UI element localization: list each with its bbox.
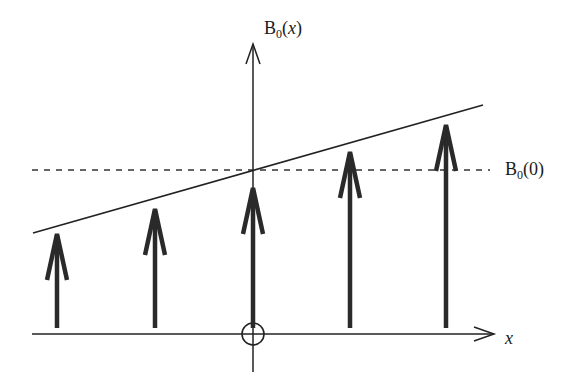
x-axis-label: x <box>504 328 513 348</box>
field-arrow-3-icon <box>243 188 263 328</box>
field-arrow-4-icon <box>340 152 360 328</box>
field-arrows <box>47 125 456 328</box>
field-gradient-diagram: B0(x) B0(0) x <box>0 0 583 390</box>
field-arrow-5-icon <box>436 125 456 328</box>
field-arrow-2-icon <box>145 209 165 328</box>
reference-label: B0(0) <box>505 159 544 182</box>
field-arrow-1-icon <box>47 234 67 328</box>
y-axis-label: B0(x) <box>264 18 302 41</box>
